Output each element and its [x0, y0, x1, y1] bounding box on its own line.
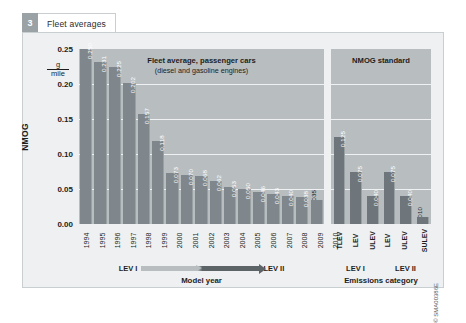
x-tick-cell: 2004 — [235, 226, 251, 262]
bar-value-label: 0.046 — [259, 186, 266, 202]
bar-cell: 0.073 — [165, 49, 179, 224]
x-tick-label: 2009 — [317, 233, 324, 249]
bar-cell: 0.035 — [310, 49, 324, 224]
bar: 0.225 — [109, 67, 121, 225]
bar-cell: 0.118 — [151, 49, 165, 224]
bar-cell: 0.053 — [223, 49, 237, 224]
x-tick-cell: 2008 — [297, 226, 313, 262]
emissions-group-row: LEV I LEV II — [331, 264, 431, 273]
x-tick-label: 2007 — [286, 233, 293, 249]
y-tick-1: 0.20 — [57, 80, 73, 89]
x-tick-cell: LEV — [381, 226, 395, 262]
bar: 0.040 — [367, 196, 379, 224]
y-unit-numerator: g — [47, 61, 69, 69]
y-axis-unit: g mile — [47, 61, 69, 78]
bar — [311, 200, 323, 225]
bar-cell: 0.231 — [93, 49, 107, 224]
x-tick-cell: 1996 — [110, 226, 126, 262]
bar-cell: 0.157 — [137, 49, 151, 224]
bar: 0.040 — [400, 196, 412, 224]
bar-value-label: 0.075 — [356, 166, 363, 182]
group-lev-ii: LEV II — [395, 264, 416, 273]
bar-cell: 0.202 — [122, 49, 136, 224]
x-tick-label: 2004 — [239, 233, 246, 249]
bar-value-label: 0.225 — [115, 61, 122, 77]
x-tick-label: 2000 — [177, 233, 184, 249]
bar: 0.157 — [138, 114, 150, 224]
bar-value-label: 0.070 — [187, 169, 194, 185]
x-tick-cell: 1998 — [141, 226, 157, 262]
bar-cell: 0.043 — [266, 49, 280, 224]
bar-cell: 0.075 — [381, 49, 398, 224]
x-tick-label: 2001 — [192, 233, 199, 249]
x-axis-left-caption: LEV I LEV II Model year — [79, 264, 324, 285]
figure-frame: NMOG 0.25 g mile 0.20 0.15 0.10 0.05 0.0… — [22, 32, 444, 288]
x-axis-emissions-category: TLEVLEVULEVLEVULEVSULEV — [331, 226, 431, 262]
bar-value-label: 0.053 — [230, 181, 237, 197]
x-tick-cell: 1999 — [157, 226, 173, 262]
tab-strip[interactable]: 3 Fleet averages — [22, 13, 116, 33]
x-tick-cell: 1997 — [126, 226, 142, 262]
bar — [417, 217, 429, 224]
x-tick-cell: ULEV — [395, 226, 414, 262]
bar-value-label: 0.040 — [372, 190, 379, 206]
bar-cell: 0.068 — [194, 49, 208, 224]
lev-i-label: LEV I — [119, 264, 138, 273]
x-tick-label: 2005 — [255, 233, 262, 249]
bar-cell: 0.062 — [209, 49, 223, 224]
x-tick-label: 2003 — [223, 233, 230, 249]
bar: 0.038 — [296, 197, 308, 224]
x-tick-cell: 2001 — [188, 226, 204, 262]
x-axis-left-title: Model year — [79, 276, 324, 285]
x-tick-label: 2008 — [301, 233, 308, 249]
bar-cell: 0.075 — [348, 49, 365, 224]
y-axis-title: NMOG — [20, 123, 30, 151]
bar-value-label: 0.038 — [302, 191, 309, 207]
bar-value-label: 0.075 — [389, 166, 396, 182]
y-tick-0: 0.25 — [57, 45, 73, 54]
bar-value-label: 0.118 — [158, 136, 165, 152]
x-tick-label: 1996 — [114, 233, 121, 249]
x-axis-right-title: Emissions category — [331, 276, 431, 285]
bar: 0.073 — [166, 173, 178, 224]
credit-code: © SMA00386E — [433, 283, 439, 323]
plot-area: Fleet average, passenger cars (diesel an… — [79, 49, 431, 224]
y-tick-5: 0.00 — [57, 220, 73, 229]
bar-value-label: 0.043 — [273, 188, 280, 204]
x-tick-label: LEV — [352, 234, 359, 248]
x-tick-label: 1997 — [130, 233, 137, 249]
bar: 0.043 — [267, 194, 279, 224]
panel-fleet-average: Fleet average, passenger cars (diesel an… — [79, 49, 324, 224]
bar: 0.062 — [210, 181, 222, 224]
bar-value-label: 0.231 — [100, 56, 107, 72]
y-tick-4: 0.05 — [57, 185, 73, 194]
y-tick-2: 0.15 — [57, 115, 73, 124]
tab-fleet-averages[interactable]: Fleet averages — [38, 13, 116, 33]
bar: 0.046 — [253, 192, 265, 224]
bar-series-nmog-standard: 0.1250.0750.0400.0750.0400.010 — [331, 49, 431, 224]
x-tick-label: 2002 — [208, 233, 215, 249]
bar-cell: 0.038 — [295, 49, 309, 224]
bar-value-label: 0.040 — [287, 190, 294, 206]
bar-value-label: 0.073 — [172, 167, 179, 183]
x-tick-cell: SULEV — [413, 226, 436, 262]
bar-value-label: 0.062 — [215, 175, 222, 191]
bar: 0.231 — [94, 62, 106, 224]
tab-number-badge: 3 — [22, 13, 38, 33]
x-tick-cell: 1994 — [79, 226, 95, 262]
x-tick-label: 1999 — [161, 233, 168, 249]
bar-series-fleet-average: 0.2500.2310.2250.2020.1570.1180.0730.070… — [79, 49, 324, 224]
bar: 0.118 — [152, 141, 164, 224]
bar-value-label: 0.250 — [86, 43, 93, 59]
y-unit-denominator: mile — [47, 69, 69, 78]
bar-cell: 0.070 — [180, 49, 194, 224]
x-tick-label: 2006 — [270, 233, 277, 249]
x-tick-cell: 2007 — [282, 226, 298, 262]
x-tick-label: LEV — [385, 234, 392, 248]
x-tick-cell: 2003 — [219, 226, 235, 262]
bar-cell: 0.225 — [108, 49, 122, 224]
bar-cell: 0.010 — [414, 49, 431, 224]
bar-cell: 0.250 — [79, 49, 93, 224]
x-tick-cell: LEV — [349, 226, 363, 262]
bar-cell: 0.046 — [252, 49, 266, 224]
